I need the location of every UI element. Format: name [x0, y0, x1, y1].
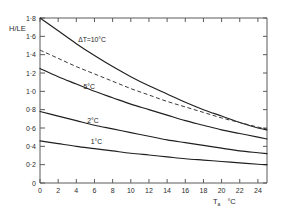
- x-tick-label: 18: [200, 187, 208, 194]
- bowen-ratio-line-chart: 024681012141618202224 00·20·40·60·81·01·…: [0, 0, 281, 211]
- y-tick-label: 1·8: [26, 15, 36, 22]
- x-tick-label: 6: [93, 187, 97, 194]
- chart-figure: 024681012141618202224 00·20·40·60·81·01·…: [0, 0, 281, 211]
- curve-label: 1°C: [91, 138, 102, 145]
- y-tick-label: 0: [32, 180, 36, 187]
- y-tick-label: 1·0: [26, 88, 36, 95]
- y-tick-label: 1·6: [26, 33, 36, 40]
- chart-background: [0, 0, 281, 211]
- x-tick-label: 20: [218, 187, 226, 194]
- curve-label: 2°C: [87, 117, 98, 124]
- y-tick-label: 0·6: [26, 125, 36, 132]
- y-tick-label: 1·4: [26, 51, 36, 58]
- x-tick-label: 2: [56, 187, 60, 194]
- x-tick-label: 12: [145, 187, 153, 194]
- x-tick-label: 22: [236, 187, 244, 194]
- y-tick-label: 0·4: [26, 143, 36, 150]
- x-tick-label: 8: [111, 187, 115, 194]
- x-axis-title-subscript: a: [218, 201, 221, 207]
- y-tick-label: 0·8: [26, 106, 36, 113]
- curve-label: 5°C: [84, 83, 95, 90]
- x-tick-label: 16: [181, 187, 189, 194]
- x-tick-label: 4: [74, 187, 78, 194]
- curve-label: ΔT=10°C: [78, 36, 106, 43]
- x-tick-label: 10: [127, 187, 135, 194]
- x-tick-label: 24: [254, 187, 262, 194]
- y-tick-label: 0·2: [26, 161, 36, 168]
- x-tick-label: 0: [38, 187, 42, 194]
- y-tick-label: 1·2: [26, 70, 36, 77]
- x-axis-title-unit: °C: [227, 197, 236, 206]
- x-tick-label: 14: [163, 187, 171, 194]
- y-axis-title: H/LE: [9, 24, 26, 33]
